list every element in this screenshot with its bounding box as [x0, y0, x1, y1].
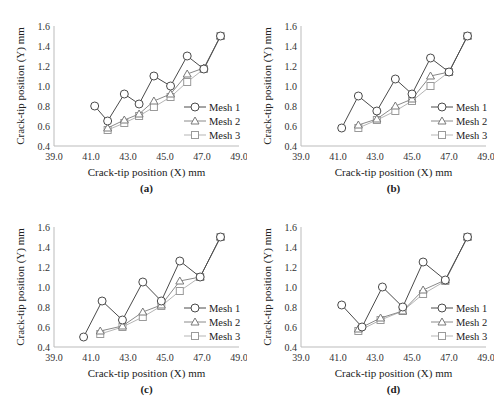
legend: Mesh 1Mesh 2Mesh 3: [431, 102, 487, 141]
circle-marker: [217, 233, 225, 241]
circle-marker: [120, 90, 128, 98]
x-tick-label: 49.0: [230, 151, 247, 162]
circle-marker: [167, 82, 175, 90]
axes: 0.40.60.81.01.21.41.639.041.043.045.047.…: [38, 21, 248, 163]
panel-label: (d): [387, 383, 401, 396]
y-tick-label: 1.2: [38, 61, 51, 72]
circle-marker: [338, 301, 346, 309]
x-tick-label: 47.0: [440, 151, 458, 162]
circle-marker: [399, 303, 407, 311]
circle-marker: [408, 90, 416, 98]
legend-circle-icon: [191, 304, 199, 312]
triangle-marker: [139, 308, 147, 315]
x-tick-label: 49.0: [477, 151, 494, 162]
y-tick-label: 0.6: [38, 322, 51, 333]
legend-label: Mesh 2: [209, 317, 240, 328]
legend-label: Mesh 3: [456, 331, 487, 342]
x-tick-label: 43.0: [119, 352, 137, 363]
circle-marker: [373, 107, 381, 115]
y-tick-label: 1.4: [285, 41, 298, 52]
legend-label: Mesh 1: [209, 303, 240, 314]
x-axis-label: Crack-tip position (X) mm: [88, 367, 206, 380]
legend-item: Mesh 1: [184, 303, 240, 314]
x-tick-label: 43.0: [119, 151, 137, 162]
x-tick-label: 43.0: [366, 151, 384, 162]
legend-item: Mesh 2: [431, 116, 487, 127]
y-tick-label: 1.0: [285, 282, 298, 293]
circle-marker: [338, 124, 346, 132]
legend-item: Mesh 2: [431, 317, 487, 328]
series-mesh-2: [354, 233, 471, 332]
circle-marker: [150, 72, 158, 80]
y-tick-label: 0.4: [38, 141, 51, 152]
legend-item: Mesh 1: [431, 102, 487, 113]
y-tick-label: 1.4: [285, 242, 298, 253]
legend-label: Mesh 3: [456, 130, 487, 141]
x-tick-label: 47.0: [193, 352, 211, 363]
y-tick-label: 1.0: [285, 81, 298, 92]
chart-panel-b: 0.40.60.81.01.21.41.639.041.043.045.047.…: [247, 0, 494, 201]
legend-label: Mesh 2: [456, 116, 487, 127]
x-tick-label: 49.0: [477, 352, 494, 363]
y-axis-label: Crack-tip position (Y) mm: [261, 27, 274, 145]
y-axis-label: Crack-tip position (Y) mm: [261, 228, 274, 346]
square-marker: [150, 104, 157, 111]
y-tick-label: 1.6: [38, 21, 51, 32]
circle-marker: [176, 257, 184, 265]
legend: Mesh 1Mesh 2Mesh 3: [431, 303, 487, 342]
circle-marker: [427, 54, 435, 62]
series-mesh-3: [355, 33, 471, 132]
legend-label: Mesh 1: [456, 102, 487, 113]
legend-label: Mesh 1: [456, 303, 487, 314]
series-mesh-2: [354, 32, 471, 128]
circle-marker: [464, 233, 472, 241]
series-mesh-1: [338, 32, 472, 132]
y-tick-label: 1.2: [285, 61, 298, 72]
y-axis-label: Crack-tip position (Y) mm: [14, 27, 27, 145]
circle-marker: [118, 316, 126, 324]
x-tick-label: 41.0: [329, 352, 347, 363]
legend-label: Mesh 3: [209, 331, 240, 342]
circle-marker: [183, 52, 191, 60]
x-tick-label: 41.0: [329, 151, 347, 162]
legend-label: Mesh 3: [209, 130, 240, 141]
y-tick-label: 1.2: [285, 262, 298, 273]
legend-square-icon: [439, 333, 446, 340]
circle-marker: [441, 276, 449, 284]
chart-panel-d: 0.40.60.81.01.21.41.639.041.043.045.047.…: [247, 201, 494, 402]
y-tick-label: 1.6: [285, 222, 298, 233]
series-mesh-2: [96, 233, 224, 334]
x-tick-label: 41.0: [82, 352, 100, 363]
circle-marker: [139, 278, 147, 286]
y-tick-label: 0.4: [38, 342, 51, 353]
circle-marker: [419, 258, 427, 266]
legend-label: Mesh 2: [209, 116, 240, 127]
circle-marker: [217, 32, 225, 40]
circle-marker: [135, 100, 143, 108]
panel-label: (b): [387, 182, 401, 195]
circle-marker: [98, 297, 106, 305]
y-tick-label: 0.4: [285, 342, 298, 353]
square-marker: [427, 83, 434, 90]
legend-circle-icon: [438, 103, 446, 111]
chart-panel-c: 0.40.60.81.01.21.41.639.041.043.045.047.…: [0, 201, 247, 402]
y-tick-label: 0.8: [38, 302, 51, 313]
y-tick-label: 1.6: [285, 21, 298, 32]
x-tick-label: 47.0: [193, 151, 211, 162]
y-tick-label: 0.8: [38, 101, 51, 112]
axes: 0.40.60.81.01.21.41.639.041.043.045.047.…: [38, 222, 248, 364]
chart-svg: 0.40.60.81.01.21.41.639.041.043.045.047.…: [247, 0, 494, 201]
legend-item: Mesh 1: [184, 102, 240, 113]
y-tick-label: 1.4: [38, 242, 51, 253]
y-axis-label: Crack-tip position (Y) mm: [14, 228, 27, 346]
panel-label: (c): [140, 383, 153, 396]
series-mesh-1: [80, 233, 225, 341]
y-tick-label: 0.8: [285, 302, 298, 313]
circle-marker: [80, 333, 88, 341]
triangle-marker: [391, 102, 399, 109]
legend-item: Mesh 3: [184, 130, 240, 141]
legend-label: Mesh 2: [456, 317, 487, 328]
series-mesh-1: [91, 32, 225, 125]
chart-svg: 0.40.60.81.01.21.41.639.041.043.045.047.…: [0, 201, 247, 402]
y-tick-label: 1.0: [38, 81, 51, 92]
